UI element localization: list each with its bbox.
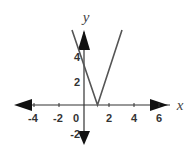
y-tick-label: 4 [74, 51, 81, 63]
x-tick-label: -4 [28, 112, 39, 124]
x-tick-label: 4 [131, 112, 138, 124]
coordinate-plane: -4 -2 0 2 4 6 -2 2 4 y x [0, 0, 194, 157]
x-tick-label: -2 [53, 112, 63, 124]
x-axis-left-arrow-icon [14, 99, 32, 111]
x-tick-label: 2 [106, 112, 112, 124]
y-tick-label: 2 [74, 76, 80, 88]
x-axis-label: x [176, 97, 184, 113]
y-axis-label: y [81, 9, 90, 25]
y-axis-up-arrow-icon [78, 30, 90, 50]
absolute-value-graph [72, 30, 122, 105]
x-tick-label: 6 [156, 112, 162, 124]
y-tick-label: -2 [70, 128, 80, 140]
x-tick-label: 0 [73, 112, 79, 124]
